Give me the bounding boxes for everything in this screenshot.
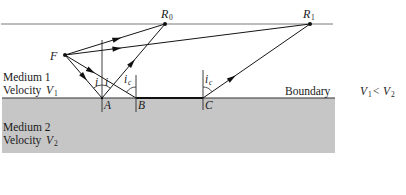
point-A <box>101 97 103 99</box>
source-point-F <box>63 53 67 57</box>
medium-1-name: Medium 1 <box>3 71 51 83</box>
medium-1-velocity-sub: 1 <box>54 89 58 98</box>
refraction-diagram: F R 0 R 1 A B C i i i c i c Medium 1 Vel… <box>0 0 406 195</box>
label-critical-B-letter: i <box>124 73 127 85</box>
condition-operator: < <box>373 85 380 97</box>
label-angle-incidence: i <box>95 76 98 88</box>
label-C: C <box>205 99 213 111</box>
label-A: A <box>103 99 112 111</box>
condition-right-sub: 2 <box>391 90 395 99</box>
medium-2-velocity-sub: 2 <box>54 139 58 148</box>
label-R1-sub: 1 <box>311 13 315 22</box>
label-B: B <box>138 99 145 111</box>
label-F: F <box>49 49 58 63</box>
medium-1-velocity-word: Velocity <box>3 84 42 97</box>
label-R0-sub: 0 <box>169 13 173 22</box>
receiver-point-R1 <box>308 22 312 26</box>
receiver-point-R0 <box>163 22 167 26</box>
condition-left-sub: 1 <box>368 90 372 99</box>
boundary-label: Boundary <box>285 85 331 98</box>
medium-2-velocity-word: Velocity <box>3 134 42 147</box>
medium-2-name: Medium 2 <box>3 121 51 133</box>
label-angle-reflection: i <box>105 76 108 88</box>
label-R0-letter: R <box>160 7 169 21</box>
label-critical-C-letter: i <box>205 73 208 85</box>
label-R1-letter: R <box>302 7 311 21</box>
